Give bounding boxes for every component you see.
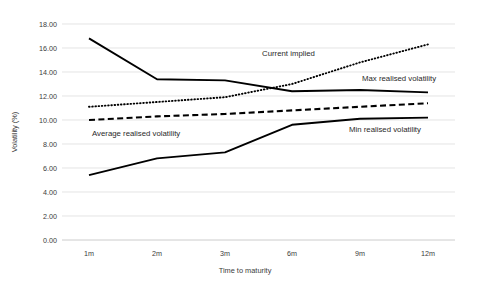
ytick-label: 18.00: [39, 20, 57, 29]
chart-canvas: 18.00 16.00 14.00 12.00 10.00 8.00 6.00 …: [0, 0, 478, 283]
ytick-label: 8.00: [43, 140, 57, 149]
ytick-label: 12.00: [39, 92, 57, 101]
series-line-max-realised-volatility: [89, 38, 428, 92]
xtick-label: 12m: [421, 249, 435, 258]
xtick-label: 9m: [355, 249, 365, 258]
x-axis-title: Time to maturity: [219, 266, 272, 275]
ytick-label: 14.00: [39, 68, 57, 77]
xtick-label: 6m: [287, 249, 297, 258]
xtick-label: 2m: [152, 249, 162, 258]
xtick-label: 3m: [220, 249, 230, 258]
y-axis-title: Volatility (%): [10, 112, 19, 153]
annotation-current-implied: Current implied: [262, 49, 315, 58]
annotation-average-realised-volatility: Average realised volatility: [92, 129, 180, 138]
series-annotations: Current implied Max realised volatility …: [92, 49, 436, 138]
series-line-average-realised-volatility: [89, 103, 428, 120]
ytick-label: 10.00: [39, 116, 57, 125]
ytick-label: 16.00: [39, 44, 57, 53]
annotation-min-realised-volatility: Min realised volatility: [349, 125, 421, 134]
ytick-label: 2.00: [43, 212, 57, 221]
annotation-max-realised-volatility: Max realised volatility: [362, 74, 436, 83]
ytick-label: 6.00: [43, 164, 57, 173]
ytick-label: 4.00: [43, 188, 57, 197]
y-axis-ticks: 18.00 16.00 14.00 12.00 10.00 8.00 6.00 …: [39, 20, 57, 245]
xtick-label: 1m: [84, 249, 94, 258]
series-group: [89, 38, 428, 175]
ytick-label: 0.00: [43, 236, 57, 245]
x-axis-ticks: 1m 2m 3m 6m 9m 12m: [84, 249, 435, 258]
volatility-term-structure-chart: 18.00 16.00 14.00 12.00 10.00 8.00 6.00 …: [0, 0, 478, 283]
